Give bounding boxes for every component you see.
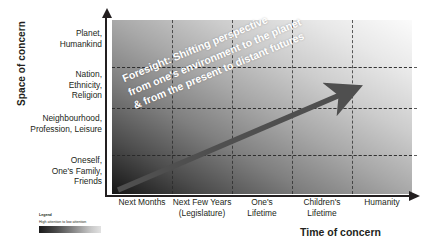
y-tick-line: Ethnicity, bbox=[12, 80, 102, 91]
x-tick-line: Next Months bbox=[112, 197, 172, 208]
y-tick-line: Profession, Leisure bbox=[12, 124, 102, 135]
legend-gradient-bar bbox=[39, 226, 101, 233]
y-tick-line: Humankind bbox=[12, 39, 102, 50]
x-tick-line: Lifetime bbox=[232, 208, 292, 219]
y-tick-line: Oneself, bbox=[12, 155, 102, 166]
x-tick-next-few-years: Next Few Years (Legislature) bbox=[172, 197, 232, 227]
grid-hline-extended bbox=[112, 155, 417, 156]
grid-hline-extended bbox=[112, 108, 417, 109]
x-axis-title: Time of concern bbox=[300, 226, 381, 238]
x-tick-line: Children's bbox=[292, 197, 352, 208]
legend: Legend High attention to low attention bbox=[39, 213, 103, 233]
y-tick-line: Neighbourhood, bbox=[12, 113, 102, 124]
x-axis-tick-labels: Next Months Next Few Years (Legislature)… bbox=[112, 197, 412, 227]
y-tick-nation-ethnicity-religion: Nation, Ethnicity, Religion bbox=[12, 69, 102, 101]
y-tick-line: Planet, bbox=[12, 28, 102, 39]
y-tick-line: Nation, bbox=[12, 69, 102, 80]
y-axis-arrowhead-icon bbox=[102, 8, 112, 18]
foresight-matrix-figure: Space of concern Planet, Humankind Natio… bbox=[0, 0, 429, 249]
y-tick-line: Religion bbox=[12, 90, 102, 101]
x-tick-childrens-lifetime: Children's Lifetime bbox=[292, 197, 352, 227]
x-tick-line: (Legislature) bbox=[172, 208, 232, 219]
y-axis-tick-labels: Planet, Humankind Nation, Ethnicity, Rel… bbox=[10, 0, 102, 249]
x-tick-line: One's bbox=[232, 197, 292, 208]
y-axis-line bbox=[105, 16, 107, 197]
legend-caption: High attention to low attention bbox=[39, 219, 103, 225]
y-tick-planet-humankind: Planet, Humankind bbox=[12, 28, 102, 49]
y-tick-oneself-family-friends: Oneself, One's Family, Friends bbox=[12, 155, 102, 187]
y-tick-line: Friends bbox=[12, 176, 102, 187]
x-tick-next-months: Next Months bbox=[112, 197, 172, 227]
x-tick-ones-lifetime: One's Lifetime bbox=[232, 197, 292, 227]
x-tick-line: Next Few Years bbox=[172, 197, 232, 208]
legend-title: Legend bbox=[39, 213, 103, 218]
y-tick-neighbourhood-profession-leisure: Neighbourhood, Profession, Leisure bbox=[12, 113, 102, 134]
x-tick-line: Lifetime bbox=[292, 208, 352, 219]
grid-vline bbox=[352, 20, 353, 194]
grid-vline bbox=[172, 20, 173, 194]
x-tick-line: Humanity bbox=[352, 197, 412, 208]
x-tick-humanity: Humanity bbox=[352, 197, 412, 227]
y-tick-line: One's Family, bbox=[12, 166, 102, 177]
